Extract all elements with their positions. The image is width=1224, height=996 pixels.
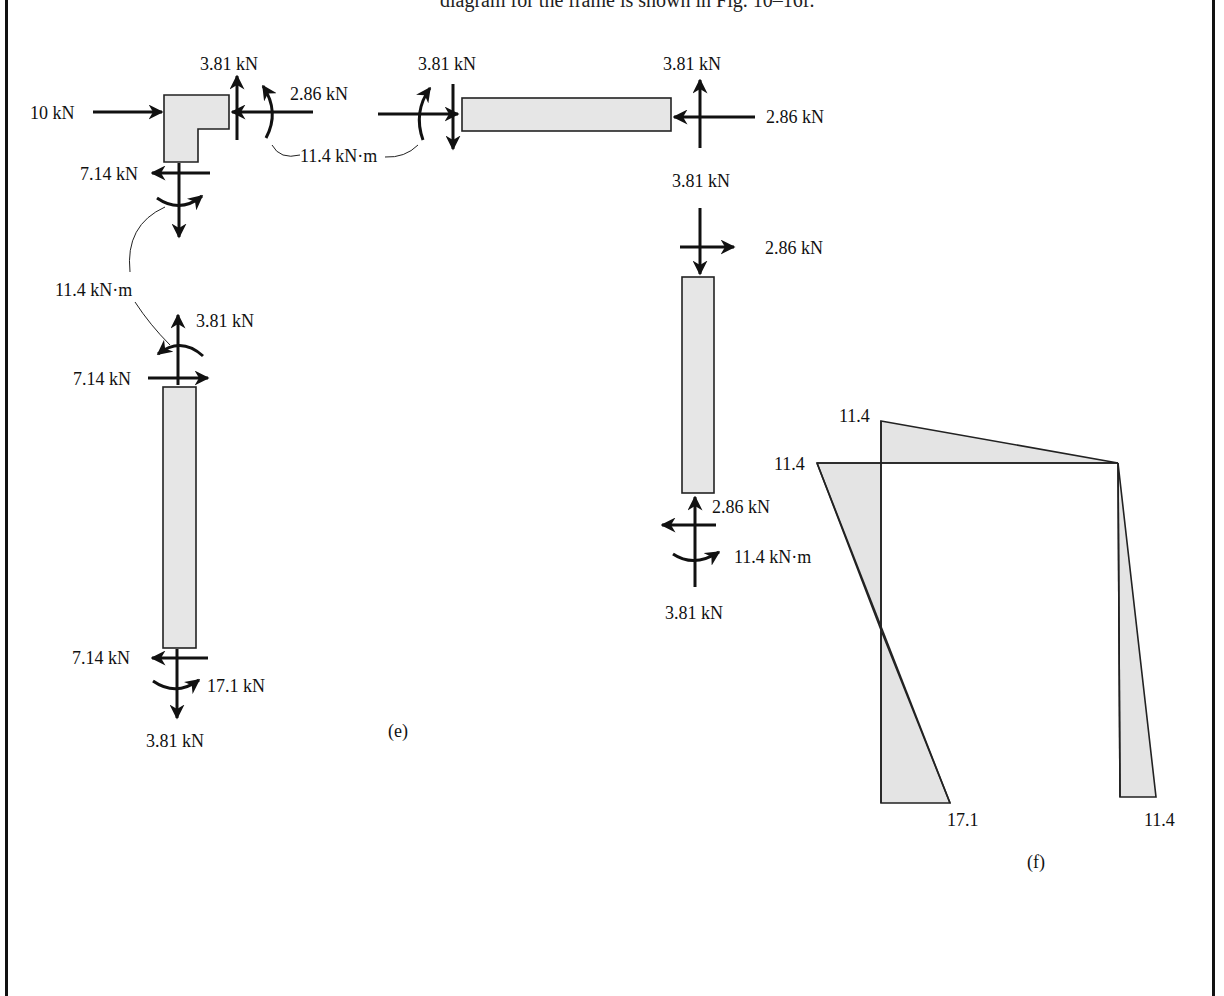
figure-e-caption: (e) xyxy=(388,721,408,742)
beam-left-vertical-label: 3.81 kN xyxy=(418,54,476,74)
left-column-top-vertical-label: 3.81 kN xyxy=(196,311,254,331)
left-column-free-body: 11.4 kN·m 3.81 kN 7.14 kN 7.14 kN 17.1 k… xyxy=(55,280,265,751)
joint-l-shape xyxy=(164,95,229,162)
beam-right-vertical-bottom-label: 3.81 kN xyxy=(672,171,730,191)
right-column-free-body: 2.86 kN 2.86 kN 11.4 kN·m 3.81 kN xyxy=(662,208,823,623)
left-column-top-moment-arc-icon xyxy=(158,345,203,356)
beam-right-vertical-top-label: 3.81 kN xyxy=(663,54,721,74)
left-column-bottom-horizontal-label: 7.14 kN xyxy=(72,648,130,668)
joint-vertical-label: 3.81 kN xyxy=(200,54,258,74)
joint-moment-label: 11.4 kN·m xyxy=(300,146,377,166)
left-base-moment-value: 17.1 xyxy=(947,810,979,830)
left-column-member xyxy=(163,387,196,648)
left-column-moment-label: 11.4 kN·m xyxy=(55,280,132,300)
beam-left-moment-value: 11.4 xyxy=(839,406,870,426)
figure-f-caption: (f) xyxy=(1027,852,1045,873)
right-column-bottom-horizontal-label: 2.86 kN xyxy=(712,497,770,517)
left-column-bottom-moment-label: 17.1 kN xyxy=(207,676,265,696)
beam-moment-region xyxy=(881,421,1118,463)
right-column-bottom-moment-label: 11.4 kN·m xyxy=(734,547,811,567)
left-column-top-horizontal-label: 7.14 kN xyxy=(73,369,131,389)
beam-free-body: 3.81 kN 3.81 kN 2.86 kN 3.81 kN xyxy=(378,54,824,191)
applied-load-label: 10 kN xyxy=(30,103,75,123)
right-column-moment-region xyxy=(1118,463,1156,797)
joint-free-body: 10 kN 3.81 kN 2.86 kN 11.4 kN·m 7.14 kN xyxy=(30,54,377,272)
right-column-top-horizontal-label: 2.86 kN xyxy=(765,238,823,258)
joint-bottom-horizontal-label: 7.14 kN xyxy=(80,164,138,184)
beam-right-horizontal-label: 2.86 kN xyxy=(766,107,824,127)
right-column-bottom-vertical-label: 3.81 kN xyxy=(665,603,723,623)
right-column-member xyxy=(682,277,714,493)
moment-diagram: 11.4 11.4 17.1 11.4 (f) xyxy=(774,406,1175,873)
joint-horizontal-label: 2.86 kN xyxy=(290,84,348,104)
left-column-bottom-vertical-label: 3.81 kN xyxy=(146,731,204,751)
column-left-top-moment-value: 11.4 xyxy=(774,454,805,474)
right-base-moment-value: 11.4 xyxy=(1144,810,1175,830)
beam-member xyxy=(462,98,671,131)
